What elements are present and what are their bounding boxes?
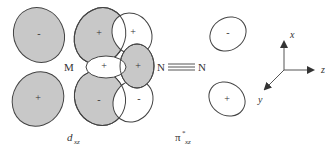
sign-pi-top: + bbox=[130, 26, 136, 37]
triple-bond bbox=[168, 64, 195, 70]
svg-text:xz: xz bbox=[73, 138, 80, 146]
pi-star-bottom-lobe: + bbox=[202, 75, 251, 123]
sign-pi-bottom: - bbox=[137, 93, 140, 104]
svg-text:π: π bbox=[175, 131, 181, 143]
dxz-label: d xz bbox=[67, 131, 80, 146]
nitrogen-1-label: N bbox=[157, 61, 165, 73]
pi-star-xz-label: π * xz bbox=[175, 129, 191, 146]
axis-x-label: x bbox=[289, 29, 295, 40]
svg-text:-: - bbox=[37, 28, 40, 39]
svg-text:xz: xz bbox=[184, 138, 191, 146]
sign-bottom-right: - bbox=[97, 94, 100, 105]
dxz-bottom-left-lobe: + bbox=[2, 62, 73, 135]
axis-y-label: y bbox=[257, 94, 263, 105]
axis-z-label: z bbox=[320, 64, 325, 75]
svg-text:*: * bbox=[182, 129, 186, 137]
svg-text:+: + bbox=[224, 93, 230, 104]
sign-sigma-white: + bbox=[101, 60, 107, 71]
orbital-diagram: - + + - + - + + M N N - bbox=[0, 0, 334, 156]
svg-text:-: - bbox=[226, 27, 229, 38]
pi-star-top-lobe: - bbox=[203, 10, 252, 58]
nitrogen-2-label: N bbox=[198, 61, 206, 73]
sign-top-right: + bbox=[96, 27, 102, 38]
svg-text:d: d bbox=[67, 131, 73, 143]
svg-text:+: + bbox=[35, 92, 41, 103]
sign-sigma-shaded: + bbox=[135, 60, 141, 71]
coordinate-axes: x z y bbox=[257, 29, 325, 105]
metal-label: M bbox=[64, 61, 74, 73]
